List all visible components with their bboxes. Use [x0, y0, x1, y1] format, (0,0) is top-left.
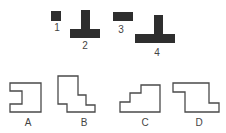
- piece-label-2: 2: [82, 40, 88, 51]
- piece-label-3: 3: [118, 24, 124, 35]
- piece-label-1: 1: [54, 22, 60, 33]
- option-b-shape: [58, 76, 95, 112]
- option-b[interactable]: B: [58, 76, 95, 128]
- t-piece-small: [70, 10, 100, 38]
- option-c[interactable]: C: [120, 85, 160, 128]
- option-c-label: C: [141, 117, 148, 128]
- piece-2: 2: [70, 10, 100, 51]
- option-a[interactable]: A: [10, 83, 41, 128]
- t-piece-large: [135, 15, 175, 43]
- option-c-shape: [120, 85, 160, 112]
- option-d-shape: [173, 83, 219, 112]
- piece-label-4: 4: [154, 47, 160, 58]
- bar-piece: [113, 12, 133, 21]
- option-d-label: D: [195, 117, 202, 128]
- option-a-label: A: [25, 117, 32, 128]
- option-d[interactable]: D: [173, 83, 219, 128]
- puzzle-diagram: 1 2 3 4 A B C D: [0, 0, 226, 133]
- square-piece: [51, 11, 61, 21]
- piece-3: 3: [113, 12, 133, 35]
- piece-1: 1: [51, 11, 61, 33]
- piece-4: 4: [135, 15, 175, 58]
- option-a-shape: [10, 83, 41, 112]
- option-b-label: B: [81, 117, 88, 128]
